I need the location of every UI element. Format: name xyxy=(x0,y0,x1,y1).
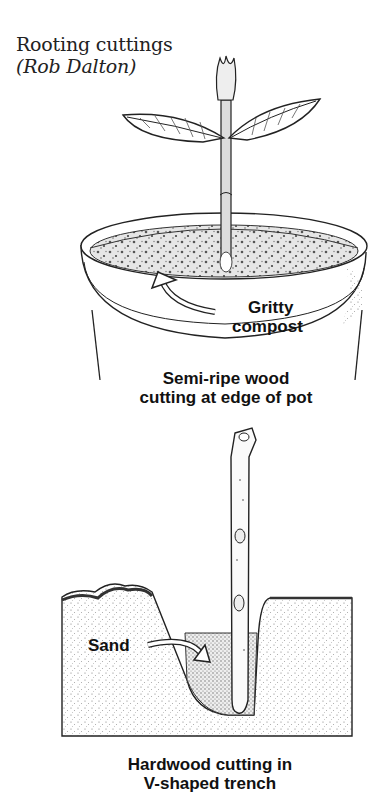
semi-ripe-caption-line2: cutting at edge of pot xyxy=(90,388,362,407)
sand-label: Sand xyxy=(88,636,130,655)
semi-ripe-caption-line1: Semi-ripe wood xyxy=(90,369,362,388)
hardwood-caption-line1: Hardwood cutting in xyxy=(60,755,360,774)
hardwood-caption-line2: V-shaped trench xyxy=(60,774,360,793)
gritty-compost-label: Gritty compost xyxy=(232,298,303,336)
semi-ripe-caption: Semi-ripe wood cutting at edge of pot xyxy=(90,369,362,407)
gritty-compost-label-line2: compost xyxy=(232,317,303,336)
gritty-compost-label-line1: Gritty xyxy=(232,298,303,317)
hardwood-caption: Hardwood cutting in V-shaped trench xyxy=(60,755,360,793)
